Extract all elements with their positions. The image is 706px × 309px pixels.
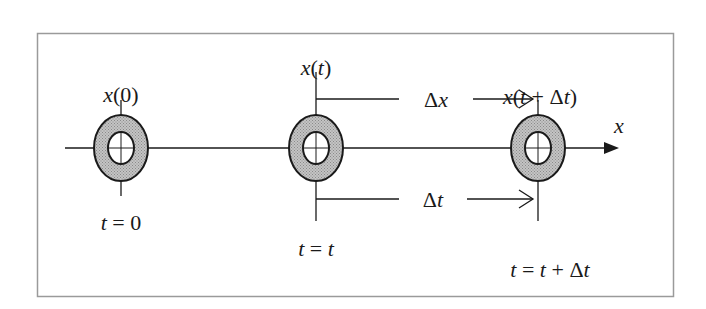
position-label-1: x(t): [300, 55, 332, 80]
position-label-2: x(t + Δt): [502, 84, 577, 109]
time-label-2: t = t + Δt: [510, 257, 590, 282]
position-label-0: x(0): [102, 82, 138, 107]
x-axis-label: x: [613, 113, 624, 138]
time-interval-label: Δt: [423, 187, 444, 212]
time-label-1: t = t: [298, 236, 335, 261]
diagram-canvas: x x(0) t = 0 x(t) t = t x(t + Δt) t = t …: [0, 0, 706, 309]
time-label-0: t = 0: [101, 210, 142, 235]
displacement-label: Δx: [424, 87, 448, 112]
